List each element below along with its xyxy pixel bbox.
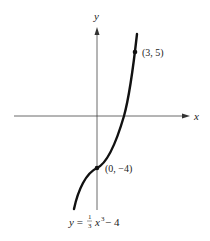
point-0-neg4 bbox=[95, 166, 100, 171]
equation-label: y = 1 3 x 3 − 4 bbox=[68, 213, 120, 230]
svg-text:y =: y = bbox=[68, 216, 83, 228]
point-label-0-neg4: (0, −4) bbox=[105, 163, 132, 175]
graph: x y (3, 5) (0, −4) y = 1 3 x 3 − 4 bbox=[0, 0, 210, 241]
y-axis-arrow-icon bbox=[95, 27, 100, 35]
x-axis-arrow-icon bbox=[182, 114, 190, 119]
point-3-5 bbox=[133, 50, 138, 55]
svg-text:− 4: − 4 bbox=[105, 216, 120, 228]
svg-text:3: 3 bbox=[88, 222, 92, 230]
svg-text:1: 1 bbox=[88, 213, 92, 221]
cubic-curve bbox=[74, 34, 137, 209]
point-label-3-5: (3, 5) bbox=[142, 47, 164, 59]
y-axis-label: y bbox=[93, 10, 99, 22]
x-axis-label: x bbox=[193, 110, 199, 122]
svg-text:x: x bbox=[94, 216, 100, 228]
